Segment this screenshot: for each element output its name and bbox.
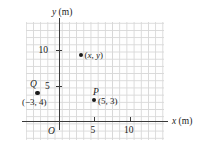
y-tick-10 — [56, 50, 62, 51]
x-tick-10 — [130, 117, 131, 122]
point-q-label: (−3, 4) — [22, 98, 47, 107]
x-axis-title-variable: x — [172, 116, 176, 126]
point-xy-paren-close: ) — [100, 50, 103, 60]
point-q-name: Q — [30, 80, 37, 90]
y-axis-title-variable: y — [52, 7, 56, 17]
point-q-dot — [35, 91, 39, 95]
x-tick-5 — [94, 117, 95, 122]
y-axis-title: y (m) — [52, 8, 72, 18]
y-tick-label-10: 10 — [39, 46, 49, 56]
coordinate-plane-figure: 5 10 5 10 O x (m) y (m) (x, y) Q (−3, 4)… — [0, 0, 208, 149]
x-tick-label-10: 10 — [124, 126, 134, 136]
y-tick-label-5: 5 — [45, 82, 50, 92]
x-axis-title: x (m) — [172, 117, 192, 127]
point-p-label: (5, 3) — [98, 97, 118, 106]
x-tick-label-5: 5 — [91, 126, 96, 136]
y-tick-5 — [56, 86, 62, 87]
y-axis-line — [59, 18, 60, 130]
y-axis-title-unit: (m) — [59, 7, 73, 17]
point-xy-label: (x, y) — [85, 51, 104, 60]
x-axis-title-unit: (m) — [179, 116, 193, 126]
origin-label: O — [48, 127, 55, 137]
